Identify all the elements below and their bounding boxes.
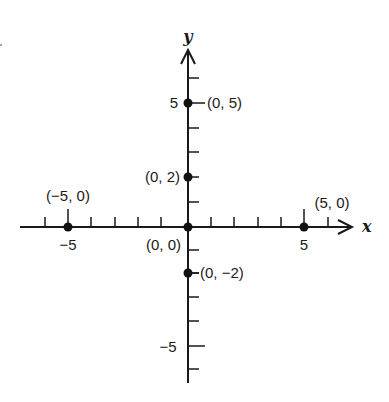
x-tick-label-pos5: 5: [300, 236, 308, 253]
x-axis-label: x: [361, 217, 372, 236]
point-origin: [184, 223, 193, 232]
point-0-5: [184, 99, 193, 108]
coordinate-plane: x −5 5 y 5 −5 (−5, 0) (5, 0) (0, 5) (0, …: [0, 0, 389, 402]
point-neg5-0: [64, 223, 73, 232]
scan-artifact-dot: [0, 44, 2, 46]
point-label-5-0: (5, 0): [314, 194, 349, 211]
y-axis: y 5 −5: [159, 27, 205, 383]
x-tick-label-neg5: −5: [59, 236, 76, 253]
x-axis: x −5 5: [20, 209, 372, 253]
point-label-neg5-0: (−5, 0): [46, 187, 90, 204]
point-5-0: [300, 223, 309, 232]
point-0-2: [184, 173, 193, 182]
point-label-0-5: (0, 5): [207, 94, 242, 111]
point-label-0-2: (0, 2): [145, 168, 180, 185]
y-tick-label-pos5: 5: [170, 94, 178, 111]
y-tick-label-neg5: −5: [159, 338, 176, 355]
y-axis-label: y: [182, 27, 194, 46]
point-label-0-neg2: (0, −2): [200, 264, 244, 281]
point-label-origin: (0, 0): [146, 236, 181, 253]
